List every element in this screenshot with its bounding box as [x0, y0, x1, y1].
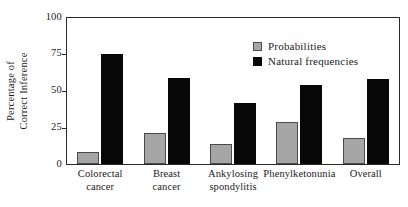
- bar-probabilities: [210, 144, 232, 164]
- x-axis-label-line1: Overall: [350, 168, 382, 179]
- plot-area: Probabilities Natural frequencies: [66, 17, 400, 165]
- chart-legend: Probabilities Natural frequencies: [253, 39, 358, 69]
- legend-label-probabilities: Probabilities: [268, 39, 326, 54]
- bar-probabilities: [343, 138, 365, 164]
- y-tick-label-25: 25: [36, 122, 62, 133]
- legend-label-natural-frequencies: Natural frequencies: [268, 54, 358, 69]
- bar-natural-frequencies: [101, 54, 123, 164]
- probabilities-swatch-icon: [253, 42, 262, 51]
- legend-item-natural-frequencies: Natural frequencies: [253, 54, 358, 69]
- bar-natural-frequencies: [234, 103, 256, 164]
- bar-probabilities: [77, 152, 99, 164]
- y-tick-label-75: 75: [36, 48, 62, 59]
- x-axis-label-line1: Breast: [153, 168, 180, 179]
- y-axis-title: Percentage of Correct Inference: [2, 17, 32, 165]
- x-axis-label-line1: Ankylosing: [208, 168, 258, 179]
- bar-probabilities: [276, 122, 298, 164]
- bar-group: [77, 18, 123, 164]
- bar-natural-frequencies: [300, 85, 322, 164]
- bar-chart-figure: Percentage of Correct Inference 100 75 5…: [0, 0, 408, 207]
- bar-natural-frequencies: [367, 79, 389, 164]
- bar-group: [144, 18, 190, 164]
- x-axis-label-line2: spondylitis: [191, 181, 275, 194]
- y-axis-title-line1: Percentage of: [5, 61, 16, 121]
- y-tick-label-50: 50: [36, 85, 62, 96]
- natural-frequencies-swatch-icon: [253, 57, 262, 66]
- bar-probabilities: [144, 133, 166, 164]
- bar-group: [210, 18, 256, 164]
- x-axis-label-4: Overall: [324, 168, 408, 181]
- x-axis-label-line1: Colorectal: [78, 168, 123, 179]
- bar-natural-frequencies: [168, 78, 190, 164]
- x-axis-tick-labels: ColorectalcancerBreastcancerAnkylosingsp…: [66, 168, 400, 206]
- y-axis-title-line2: Correct Inference: [17, 52, 30, 129]
- legend-item-probabilities: Probabilities: [253, 39, 358, 54]
- y-tick-label-100: 100: [36, 12, 62, 23]
